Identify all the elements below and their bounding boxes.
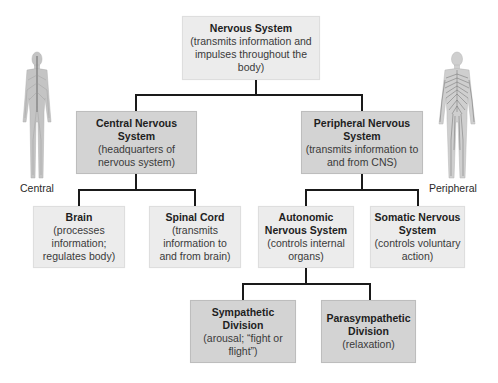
connector-to-autonomic <box>305 189 307 206</box>
connector-root-down <box>255 80 257 95</box>
brain-desc: (processes information; regulates body) <box>35 224 123 263</box>
connector-autonomic-down <box>305 268 307 284</box>
spinal-cord-box: Spinal Cord (transmits information to an… <box>149 206 241 268</box>
connector-to-pns <box>361 94 363 111</box>
central-label: Central <box>20 182 54 194</box>
nervous-system-desc: (transmits information and impulses thro… <box>185 35 317 74</box>
autonomic-title: Autonomic Nervous System <box>259 211 353 237</box>
connector-cns-down <box>135 174 137 190</box>
sympathetic-desc: (arousal; “fight or flight”) <box>195 332 291 358</box>
sympathetic-division-box: Sympathetic Division (arousal; “fight or… <box>190 300 296 363</box>
connector-level1-horizontal <box>135 94 363 96</box>
brain-title: Brain <box>66 211 93 224</box>
connector-to-cns <box>135 94 137 111</box>
nervous-system-box: Nervous System (transmits information an… <box>182 16 320 80</box>
parasympathetic-division-box: Parasympathetic Division (relaxation) <box>321 300 416 363</box>
cns-desc: (headquarters of nervous system) <box>87 143 187 169</box>
peripheral-nervous-system-box: Peripheral Nervous System (transmits inf… <box>301 111 423 174</box>
pns-title: Peripheral Nervous System <box>306 117 418 143</box>
spinal-cord-title: Spinal Cord <box>166 211 225 224</box>
parasympathetic-title: Parasympathetic Division <box>322 312 416 338</box>
somatic-desc: (controls voluntary action) <box>373 237 463 263</box>
pns-desc: (transmits information to and from CNS) <box>303 143 421 169</box>
connector-pns-horizontal <box>305 189 418 191</box>
connector-to-sympathetic <box>242 283 244 300</box>
parasympathetic-desc: (relaxation) <box>342 338 395 351</box>
connector-pns-down <box>361 174 363 190</box>
spinal-cord-desc: (transmits information to and from brain… <box>155 224 235 263</box>
somatic-title: Somatic Nervous System <box>371 211 465 237</box>
sympathetic-title: Sympathetic Division <box>203 306 283 332</box>
nervous-system-title: Nervous System <box>210 22 292 35</box>
central-nervous-system-figure-icon <box>22 50 52 182</box>
connector-cns-horizontal <box>78 189 195 191</box>
peripheral-nervous-system-figure-icon <box>438 50 476 182</box>
brain-box: Brain (processes information; regulates … <box>33 206 125 268</box>
cns-title: Central Nervous System <box>87 117 187 143</box>
connector-to-somatic <box>417 189 419 206</box>
peripheral-label: Peripheral <box>429 182 477 194</box>
connector-to-parasympathetic <box>369 283 371 300</box>
connector-to-brain <box>78 189 80 206</box>
somatic-nervous-system-box: Somatic Nervous System (controls volunta… <box>370 206 465 268</box>
autonomic-desc: (controls internal organs) <box>260 237 352 263</box>
connector-autonomic-horizontal <box>242 283 370 285</box>
autonomic-nervous-system-box: Autonomic Nervous System (controls inter… <box>258 206 354 268</box>
connector-to-spinal-cord <box>194 189 196 206</box>
central-nervous-system-box: Central Nervous System (headquarters of … <box>76 111 197 174</box>
